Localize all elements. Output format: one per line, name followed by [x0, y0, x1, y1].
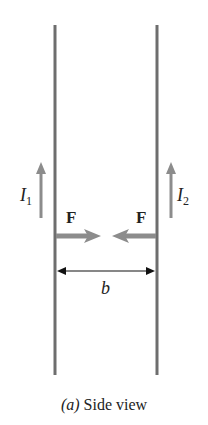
caption-text: Side view [80, 396, 148, 413]
current-subscript-left: 1 [26, 194, 32, 208]
separation-label: b [101, 279, 110, 297]
force-label-left: F [66, 209, 76, 226]
force-arrow-left-icon [112, 229, 156, 243]
separation-dimension-icon [57, 267, 155, 275]
figure-caption: (a) Side view [0, 396, 208, 414]
current-arrow-right-icon [166, 162, 176, 218]
caption-prefix: (a) [61, 396, 80, 413]
current-arrow-left-icon [36, 162, 46, 218]
current-label-right: I2 [177, 186, 189, 207]
force-arrow-right-icon [56, 229, 101, 243]
current-subscript-right: 2 [183, 194, 189, 208]
current-label-left: I1 [20, 186, 32, 207]
parallel-wires-diagram [0, 0, 208, 425]
force-label-right: F [136, 209, 146, 226]
